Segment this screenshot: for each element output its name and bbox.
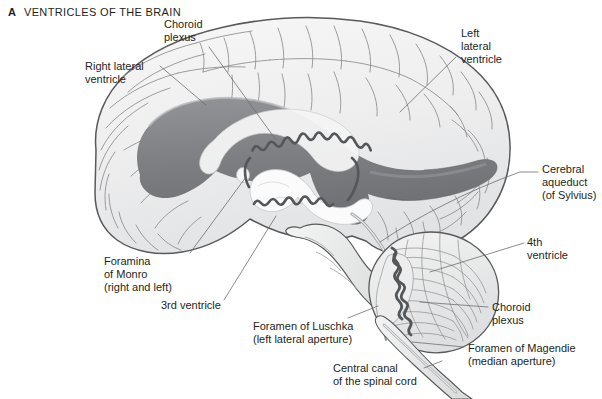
label-foramen-of-luschka: Foramen of Luschka (left lateral apertur… <box>253 320 353 346</box>
label-fourth-ventricle: 4th ventricle <box>527 236 568 262</box>
figure-panel: A VENTRICLES OF THE BRAIN Choroid plexus… <box>0 0 602 399</box>
label-cerebral-aqueduct: Cerebral aqueduct (of Sylvius) <box>542 163 596 203</box>
label-right-lateral-ventricle: Right lateral ventricle <box>85 60 144 86</box>
label-central-canal: Central canal of the spinal cord <box>333 362 417 388</box>
label-choroid-plexus-bottom: Choroid plexus <box>492 301 531 327</box>
panel-letter: A <box>8 6 16 19</box>
label-third-ventricle: 3rd ventricle <box>161 299 221 312</box>
interventricular-foramen <box>237 168 250 183</box>
label-foramen-of-magendie: Foramen of Magendie (median aperture) <box>468 342 576 368</box>
figure-title: VENTRICLES OF THE BRAIN <box>24 6 181 19</box>
label-choroid-plexus-top: Choroid plexus <box>164 18 203 44</box>
label-left-lateral-ventricle: Left lateral ventricle <box>461 27 502 67</box>
label-foramina-of-monro: Foramina of Monro (right and left) <box>104 255 172 295</box>
